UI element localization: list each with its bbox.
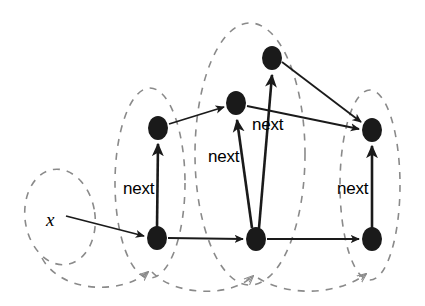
node-n4-top[interactable] bbox=[362, 118, 382, 142]
edge-node1-bottom-to-node1-top bbox=[157, 144, 158, 228]
region-link-3 bbox=[258, 274, 366, 291]
node-n3-top[interactable] bbox=[262, 46, 282, 70]
diagram-canvas: x next next next next bbox=[0, 0, 425, 306]
edge-node3-top-to-node4-top bbox=[282, 62, 361, 122]
region-link-group bbox=[42, 258, 366, 291]
edge-node2-bottom-to-node2-top bbox=[237, 120, 252, 228]
node-n2-bottom[interactable] bbox=[246, 227, 266, 251]
edge-node1-bottom-to-node2-bottom bbox=[168, 238, 243, 239]
edge-label-next-2: next bbox=[208, 148, 239, 165]
node-n1-top[interactable] bbox=[148, 116, 168, 140]
edge-x-to-node1-bottom bbox=[66, 216, 144, 236]
node-n2-top[interactable] bbox=[226, 91, 246, 115]
edge-label-next-4: next bbox=[337, 180, 368, 197]
region-link-1 bbox=[42, 258, 148, 287]
variable-label-x: x bbox=[46, 210, 54, 229]
node-n1-bottom[interactable] bbox=[147, 226, 167, 250]
edge-label-next-3: next bbox=[252, 116, 283, 133]
region-1 bbox=[19, 165, 102, 270]
edge-label-next-1: next bbox=[123, 180, 154, 197]
region-link-2 bbox=[152, 272, 253, 291]
edge-node2-bottom-to-node3-top bbox=[259, 75, 272, 228]
node-n4-bottom[interactable] bbox=[362, 227, 382, 251]
